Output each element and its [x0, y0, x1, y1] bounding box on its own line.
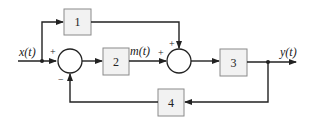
- block-4-label: 4: [168, 96, 174, 110]
- block-1-label: 1: [75, 15, 81, 29]
- output-signal-label: y(t): [279, 45, 297, 59]
- feedback-line: [70, 74, 158, 102]
- sum1-minus-sign: −: [58, 74, 64, 85]
- summing-junction-1: [58, 49, 82, 73]
- input-signal-label: x(t): [18, 45, 36, 59]
- summing-junction-2: [167, 49, 191, 73]
- block-4: 4: [158, 89, 184, 116]
- sum1-plus-sign: +: [50, 46, 56, 57]
- intermediate-signal-label: m(t): [130, 44, 150, 58]
- block-2: 2: [103, 48, 129, 75]
- sum2-top-plus-sign: +: [169, 38, 175, 49]
- sum2-left-plus-sign: +: [158, 47, 164, 58]
- block-3-label: 3: [231, 56, 237, 70]
- block-1: 1: [64, 9, 91, 35]
- block-diagram: x(t) 1 + − 2 m(t) + + 3 y(t) 4: [0, 0, 311, 123]
- block-3: 3: [220, 49, 247, 76]
- input-signal-line: [18, 59, 56, 63]
- block-2-label: 2: [113, 55, 119, 69]
